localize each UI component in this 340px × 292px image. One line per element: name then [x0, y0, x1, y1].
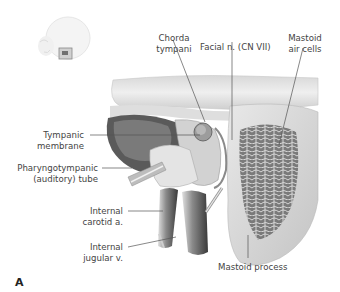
label-facial-nerve: Facial n. (CN VII) [200, 42, 271, 53]
label-line: Tympanic [20, 130, 84, 141]
label-line: (auditory) tube [10, 174, 98, 185]
label-line: air cells [285, 44, 325, 55]
panel-letter: A [15, 276, 24, 289]
label-line: Internal [70, 242, 123, 253]
label-tympanic-membrane: Tympanic membrane [20, 130, 84, 151]
label-mastoid-process: Mastoid process [218, 262, 287, 273]
label-internal-jugular: Internal jugular v. [70, 242, 123, 263]
label-line: Internal [70, 206, 123, 217]
label-line: Pharyngotympanic [10, 163, 98, 174]
label-internal-carotid: Internal carotid a. [70, 206, 123, 227]
label-line: jugular v. [70, 253, 123, 264]
skull-thumbnail [38, 17, 90, 59]
label-mastoid-air-cells: Mastoid air cells [285, 33, 325, 54]
internal-jugular-vessel [182, 190, 208, 255]
label-line: carotid a. [70, 217, 123, 228]
label-chorda-tympani: Chorda tympani [148, 33, 200, 54]
label-line: membrane [20, 141, 84, 152]
label-line: Chorda [148, 33, 200, 44]
label-line: tympani [148, 44, 200, 55]
label-line: Mastoid [285, 33, 325, 44]
label-pharyngotympanic-tube: Pharyngotympanic (auditory) tube [10, 163, 98, 184]
